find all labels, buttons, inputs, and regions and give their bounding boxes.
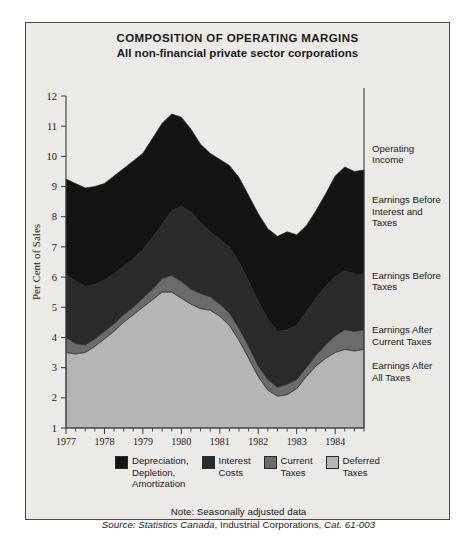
x-tick-label: 1978 (94, 436, 114, 447)
y-tick-label: 7 (52, 242, 57, 253)
chart-legend: Depreciation, Depletion, AmortizationInt… (26, 455, 451, 490)
legend-item-deferred-taxes: Deferred Taxes (326, 455, 380, 490)
footer-source: Source: Statistics Canada, Industrial Co… (26, 518, 451, 531)
callout-earnings-before-interest-and-taxes: Taxes (372, 217, 397, 228)
y-tick-label: 11 (47, 121, 57, 132)
plot-area: 1234567891011121977197819791980198119821… (26, 61, 451, 451)
legend-item-current-taxes: Current Taxes (264, 455, 313, 490)
x-tick-label: 1980 (171, 436, 191, 447)
footer-source-series: , Industrial Corporations, (215, 519, 324, 530)
y-axis-title: Per Cent of Sales (30, 224, 42, 300)
y-tick-label: 3 (52, 362, 57, 373)
y-tick-label: 2 (52, 392, 57, 403)
legend-label-interest-costs: Interest Costs (219, 455, 251, 478)
chart-subtitle: All non-financial private sector corpora… (26, 46, 449, 61)
legend-item-interest-costs: Interest Costs (202, 455, 251, 490)
y-tick-label: 4 (52, 332, 58, 343)
y-tick-label: 8 (52, 211, 57, 222)
x-tick-label: 1982 (248, 436, 268, 447)
callout-operating-income: Operating (372, 143, 414, 154)
legend-item-depreciation-depletion-amortization: Depreciation, Depletion, Amortization (115, 455, 189, 490)
y-tick-label: 5 (52, 302, 57, 313)
legend-swatch-interest-costs (202, 456, 215, 469)
title-block: COMPOSITION OF OPERATING MARGINS All non… (26, 31, 449, 60)
figure-panel: COMPOSITION OF OPERATING MARGINS All non… (25, 22, 450, 520)
callout-earnings-before-taxes: Earnings Before (372, 270, 441, 281)
legend-swatch-deferred-taxes (326, 456, 339, 469)
callout-earnings-before-interest-and-taxes: Earnings Before (372, 194, 441, 205)
footer-source-catalogue: Cat. 61-003 (324, 519, 375, 530)
figure-footer: Note: Seasonally adjusted data Source: S… (26, 505, 451, 531)
callout-earnings-before-taxes: Taxes (372, 281, 397, 292)
y-tick-label: 12 (47, 91, 58, 102)
legend-label-deferred-taxes: Deferred Taxes (343, 455, 380, 478)
page-title: COMPOSITION OF OPERATING MARGINS (26, 31, 449, 46)
callout-earnings-before-interest-and-taxes: Interest and (372, 206, 423, 217)
x-tick-label: 1984 (325, 436, 345, 447)
x-tick-label: 1979 (133, 436, 153, 447)
y-tick-label: 1 (52, 423, 57, 434)
legend-swatch-current-taxes (264, 456, 277, 469)
footer-source-label: Source: (102, 519, 136, 530)
callout-earnings-after-current-taxes: Earnings After (372, 324, 433, 335)
callout-earnings-after-all-taxes: Earnings After (372, 360, 433, 371)
callout-earnings-after-all-taxes: All Taxes (372, 372, 410, 383)
y-tick-label: 9 (52, 181, 57, 192)
stacked-area-chart: 1234567891011121977197819791980198119821… (26, 61, 451, 451)
x-tick-label: 1983 (287, 436, 307, 447)
x-tick-label: 1981 (210, 436, 230, 447)
y-tick-label: 6 (52, 272, 57, 283)
footer-note: Note: Seasonally adjusted data (26, 505, 451, 518)
callout-operating-income: Income (372, 154, 403, 165)
footer-source-publisher: Statistics Canada (138, 519, 214, 530)
legend-swatch-depreciation-depletion-amortization (115, 456, 128, 469)
x-tick-label: 1977 (56, 436, 76, 447)
y-tick-label: 10 (47, 151, 58, 162)
legend-label-current-taxes: Current Taxes (281, 455, 313, 478)
callout-earnings-after-current-taxes: Current Taxes (372, 336, 432, 347)
legend-label-depreciation-depletion-amortization: Depreciation, Depletion, Amortization (132, 455, 189, 490)
